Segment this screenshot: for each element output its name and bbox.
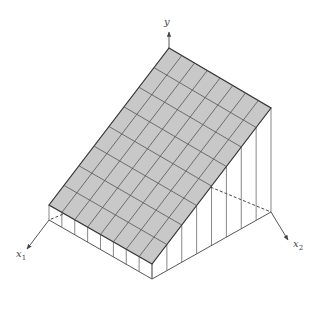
surface-diagram: y x1 x2 [0, 0, 319, 320]
y-axis-label: y [164, 16, 170, 27]
x2-axis-label: x2 [293, 238, 303, 252]
x1-axis-label: x1 [16, 248, 26, 262]
diagram-canvas [0, 0, 319, 320]
x1-axis [27, 220, 49, 249]
x2-axis [271, 212, 288, 240]
